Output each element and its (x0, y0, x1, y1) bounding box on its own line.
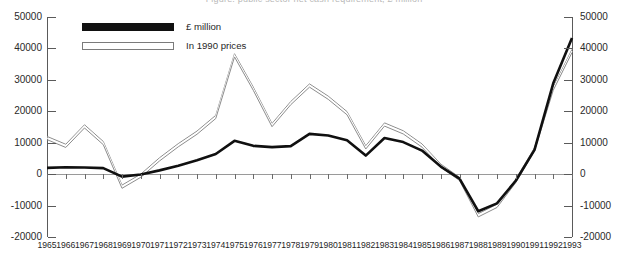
y-label-left: 50000 (2, 12, 42, 22)
y-tick-right (564, 48, 572, 49)
x-label-year: 1983 (375, 241, 394, 250)
y-tick-left (48, 111, 56, 112)
x-tick (122, 174, 123, 179)
x-label-year: 1965 (37, 241, 56, 250)
x-tick (141, 174, 142, 179)
y-tick-right (564, 174, 572, 175)
x-tick (103, 174, 104, 179)
x-tick (553, 174, 554, 179)
y-label-left: 20000 (2, 106, 42, 116)
clipped-title: Figure: public sector net cash requireme… (0, 0, 628, 4)
y-tick-right (564, 206, 572, 207)
x-tick (366, 174, 367, 179)
x-label-year: 1981 (337, 241, 356, 250)
y-tick-right (564, 111, 572, 112)
x-tick (460, 174, 461, 179)
plot-area (47, 17, 573, 237)
line-in-1990-prices-outer (47, 49, 572, 213)
x-tick (328, 174, 329, 179)
legend-swatch-pound-million (82, 23, 174, 31)
x-label-year: 1980 (319, 241, 338, 250)
x-label-year: 1986 (431, 241, 450, 250)
x-label-year: 1971 (150, 241, 169, 250)
x-tick (272, 174, 273, 179)
x-label-year: 1990 (506, 241, 525, 250)
x-label-year: 1978 (281, 241, 300, 250)
chart-container: Figure: public sector net cash requireme… (0, 0, 628, 258)
x-tick (310, 174, 311, 179)
x-label-year: 1976 (244, 241, 263, 250)
x-tick (291, 174, 292, 179)
x-label-year: 1970 (131, 241, 150, 250)
x-label-year: 1989 (487, 241, 506, 250)
y-label-left: 0 (2, 169, 42, 179)
x-tick (178, 174, 179, 179)
x-label-year: 1991 (525, 241, 544, 250)
x-label-year: 1982 (356, 241, 375, 250)
y-tick-right (564, 17, 572, 18)
y-label-right: 30000 (580, 75, 608, 85)
y-tick-left (48, 143, 56, 144)
y-label-left: -10000 (2, 201, 42, 211)
x-tick (235, 174, 236, 179)
x-label-year: 1966 (56, 241, 75, 250)
x-tick (572, 174, 573, 179)
legend-swatch-in-1990-prices (82, 42, 174, 50)
y-tick-right (564, 80, 572, 81)
x-label-year: 1992 (544, 241, 563, 250)
x-tick (403, 174, 404, 179)
y-label-right: 10000 (580, 138, 608, 148)
x-label-year: 1972 (169, 241, 188, 250)
x-label-year: 1973 (187, 241, 206, 250)
x-label-year: 1967 (75, 241, 94, 250)
x-tick (253, 174, 254, 179)
y-tick-left (48, 17, 56, 18)
y-tick-left (48, 48, 56, 49)
x-label-year: 1968 (94, 241, 113, 250)
y-label-left: 10000 (2, 138, 42, 148)
x-tick (535, 174, 536, 179)
legend-label-pound-million: £ million (186, 21, 221, 33)
y-label-left: 30000 (2, 75, 42, 85)
x-tick (160, 174, 161, 179)
y-label-right: 20000 (580, 106, 608, 116)
x-tick (85, 174, 86, 179)
y-label-right: 0 (580, 169, 586, 179)
y-label-right: -10000 (580, 201, 611, 211)
y-tick-right (564, 237, 572, 238)
line-pound-million (47, 38, 572, 211)
x-label-year: 1987 (450, 241, 469, 250)
series-lines (47, 17, 573, 237)
y-label-left: 40000 (2, 43, 42, 53)
x-label-year: 1979 (300, 241, 319, 250)
x-tick (66, 174, 67, 179)
y-label-right: -20000 (580, 232, 611, 242)
y-label-left: -20000 (2, 232, 42, 242)
y-tick-left (48, 206, 56, 207)
x-tick (347, 174, 348, 179)
y-label-right: 50000 (580, 12, 608, 22)
x-label-year: 1969 (112, 241, 131, 250)
x-label-year: 1975 (225, 241, 244, 250)
x-label-year: 1988 (469, 241, 488, 250)
x-tick (216, 174, 217, 179)
x-label-year: 1985 (412, 241, 431, 250)
x-label-year: 1984 (394, 241, 413, 250)
x-tick (497, 174, 498, 179)
x-label-year: 1977 (262, 241, 281, 250)
y-tick-left (48, 174, 56, 175)
y-tick-left (48, 80, 56, 81)
x-tick (47, 174, 48, 179)
y-tick-right (564, 143, 572, 144)
x-tick (385, 174, 386, 179)
x-tick (422, 174, 423, 179)
x-tick (441, 174, 442, 179)
x-tick (478, 174, 479, 179)
y-label-right: 40000 (580, 43, 608, 53)
legend-label-in-1990-prices: In 1990 prices (186, 40, 246, 52)
x-label-year: 1993 (562, 241, 581, 250)
x-label-year: 1974 (206, 241, 225, 250)
y-tick-left (48, 237, 56, 238)
x-tick (516, 174, 517, 179)
x-tick (197, 174, 198, 179)
